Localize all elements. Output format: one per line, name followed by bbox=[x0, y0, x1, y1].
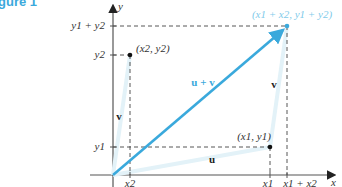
x-tick-x1-plus-x2: x1 + x2 bbox=[282, 177, 317, 187]
point-sum-label: (x1 + x2, y1 + y2) bbox=[252, 8, 333, 21]
y-tick-y1-plus-y2: y1 + y2 bbox=[70, 19, 105, 31]
vector-addition-diagram: y x y1 + y2 y2 y1 x2 x1 x1 + x2 (x2, y2)… bbox=[0, 0, 342, 187]
vector-v-left-label: v bbox=[116, 110, 122, 122]
y-tick-y1: y1 bbox=[94, 140, 105, 152]
y-tick-y2: y2 bbox=[94, 48, 106, 60]
vector-sum-label: u + v bbox=[191, 76, 215, 88]
faint-u-vector bbox=[113, 147, 270, 175]
y-axis-label: y bbox=[117, 0, 123, 12]
x-tick-x2: x2 bbox=[124, 177, 136, 187]
point-p1 bbox=[268, 145, 273, 150]
point-p1-label: (x1, y1) bbox=[237, 130, 271, 143]
vector-u-label: u bbox=[209, 153, 215, 165]
point-p2 bbox=[128, 53, 133, 58]
point-sum bbox=[285, 24, 290, 29]
vector-v-right-label: v bbox=[271, 78, 277, 90]
x-axis-label: x bbox=[330, 176, 336, 187]
x-tick-x1: x1 bbox=[262, 177, 273, 187]
point-p2-label: (x2, y2) bbox=[136, 42, 170, 55]
